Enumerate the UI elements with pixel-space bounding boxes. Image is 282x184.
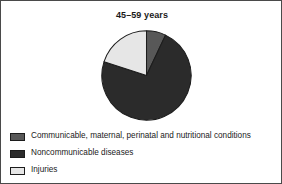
legend-swatch-noncommunicable-icon (10, 150, 25, 158)
legend-label-communicable: Communicable, maternal, perinatal and nu… (31, 132, 251, 140)
legend-item-injuries[interactable]: Injuries (10, 162, 276, 179)
legend-swatch-communicable-icon (10, 133, 25, 141)
page-title: 45–59 years (1, 10, 282, 20)
pie-chart (100, 29, 193, 122)
figure-panel: 45–59 years Communicable, maternal, peri… (0, 0, 282, 184)
legend-label-injuries: Injuries (31, 166, 57, 174)
legend: Communicable, maternal, perinatal and nu… (10, 128, 276, 179)
legend-label-noncommunicable: Noncommunicable diseases (31, 149, 133, 157)
legend-swatch-injuries-icon (10, 167, 25, 175)
legend-item-communicable[interactable]: Communicable, maternal, perinatal and nu… (10, 128, 276, 145)
pie-chart-svg (100, 29, 193, 122)
legend-item-noncommunicable[interactable]: Noncommunicable diseases (10, 145, 276, 162)
